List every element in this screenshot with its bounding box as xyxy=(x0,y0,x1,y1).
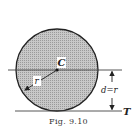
distance-label: d=r xyxy=(101,85,119,95)
figure-diagram: r C d=r T xyxy=(0,0,137,134)
figure-caption: Fig. 9.10 xyxy=(0,117,137,126)
radius-label: r xyxy=(35,76,40,86)
tangent-label: T xyxy=(123,106,132,117)
center-label: C xyxy=(58,57,66,68)
